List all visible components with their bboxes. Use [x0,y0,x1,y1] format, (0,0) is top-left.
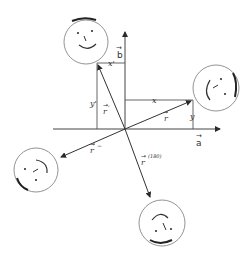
r-180-arrow: → [141,152,146,159]
a-axis-arrow: → [196,132,202,140]
r-arrow: → [163,108,168,115]
r-minus-superscript: − [97,142,102,149]
y-prime-label: y' [89,99,97,108]
y-label: y [189,112,195,121]
r-180-superscript: (180) [148,153,161,159]
b-axis-arrow: → [116,44,122,52]
x-prime-label: x' [108,59,115,68]
face-bottom [139,200,185,246]
r-minus-arrow: → [90,140,95,147]
x-label: x [152,96,157,105]
face-right [193,65,239,111]
r-minus-label: r [90,146,95,155]
coordinate-rotation-diagram: b → a → x y x' y' r → r → ' r → − r → (1… [0,0,250,255]
vector-r-prime [98,65,125,129]
r-prime-superscript: ' [108,104,110,111]
face-top [64,18,108,64]
r-label: r [164,114,169,123]
vector-r-180 [125,129,150,197]
diagram-canvas: b → a → x y x' y' r → r → ' r → − r → (1… [0,0,250,255]
face-left [14,148,58,192]
r-180-label: r [141,158,146,167]
vector-r [125,101,191,129]
